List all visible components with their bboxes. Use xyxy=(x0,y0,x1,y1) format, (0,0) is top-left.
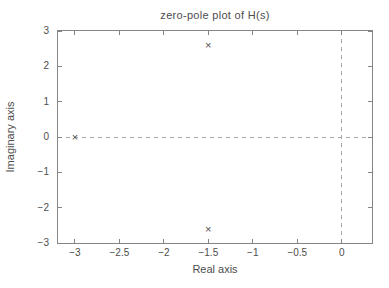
y-tick-mark-left xyxy=(58,137,62,138)
x-tick-label: −1 xyxy=(247,247,258,258)
pole-zero-figure: zero-pole plot of H(s) Imaginary axis ××… xyxy=(0,0,389,288)
x-tick-label: −0.5 xyxy=(287,247,307,258)
x-tick-label: −3 xyxy=(69,247,80,258)
y-tick-mark-right xyxy=(368,66,372,67)
pole-marker: × xyxy=(205,223,211,234)
x-tick-label: −1.5 xyxy=(198,247,218,258)
x-tick-mark-bottom xyxy=(74,239,75,243)
x-tick-mark-top xyxy=(119,31,120,35)
y-tick-mark-right xyxy=(368,207,372,208)
y-tick-label: −3 xyxy=(0,237,49,249)
x-tick-mark-bottom xyxy=(297,239,298,243)
x-tick-label: −2.5 xyxy=(110,247,130,258)
y-tick-mark-right xyxy=(368,137,372,138)
plot-area: ××× xyxy=(57,30,373,244)
x-tick-mark-top xyxy=(74,31,75,35)
real-zero-dashed-line xyxy=(341,31,342,243)
x-tick-mark-top xyxy=(163,31,164,35)
x-tick-mark-bottom xyxy=(163,239,164,243)
y-tick-mark-left xyxy=(58,172,62,173)
y-tick-mark-left xyxy=(58,243,62,244)
y-tick-mark-left xyxy=(58,66,62,67)
x-tick-label: −2 xyxy=(158,247,169,258)
x-tick-mark-bottom xyxy=(119,239,120,243)
y-tick-mark-right xyxy=(368,31,372,32)
y-tick-mark-right xyxy=(368,172,372,173)
chart-title: zero-pole plot of H(s) xyxy=(57,9,373,21)
pole-marker: × xyxy=(72,132,78,143)
x-tick-mark-bottom xyxy=(252,239,253,243)
y-tick-mark-right xyxy=(368,101,372,102)
y-tick-label: 2 xyxy=(0,60,49,72)
pole-marker: × xyxy=(205,40,211,51)
x-tick-label: 0 xyxy=(339,247,345,258)
y-tick-label: 3 xyxy=(0,25,49,37)
y-tick-mark-left xyxy=(58,31,62,32)
y-tick-mark-left xyxy=(58,101,62,102)
y-tick-label: −1 xyxy=(0,166,49,178)
y-tick-mark-right xyxy=(368,243,372,244)
y-tick-label: 0 xyxy=(0,131,49,143)
x-tick-mark-top xyxy=(341,31,342,35)
y-tick-mark-left xyxy=(58,207,62,208)
x-tick-mark-bottom xyxy=(341,239,342,243)
y-tick-label: −2 xyxy=(0,202,49,214)
x-tick-mark-top xyxy=(252,31,253,35)
imag-zero-dashed-line xyxy=(58,137,372,138)
x-axis-label: Real axis xyxy=(57,263,373,275)
x-tick-mark-top xyxy=(297,31,298,35)
x-tick-mark-bottom xyxy=(208,239,209,243)
y-tick-label: 1 xyxy=(0,96,49,108)
x-tick-mark-top xyxy=(208,31,209,35)
